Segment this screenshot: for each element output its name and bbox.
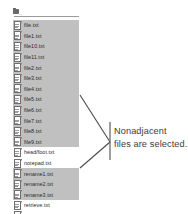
file-list-item[interactable]: notepad.txt	[13, 158, 79, 169]
file-list-item[interactable]: file4.txt	[13, 84, 79, 95]
file-name-label: retrieve.txt	[24, 202, 50, 208]
file-list-item[interactable]: file3.txt	[13, 73, 79, 84]
callout-annotation: Nonadjacent files are selected.	[114, 125, 188, 150]
file-list-item[interactable]: rename2.txt	[13, 179, 79, 190]
file-list-item[interactable]: rename3.txt	[13, 190, 79, 201]
file-list-item[interactable]: search.txt	[13, 211, 79, 214]
text-document-icon	[14, 21, 22, 30]
file-list-item[interactable]: file9.txt	[13, 137, 79, 148]
parent-directory-entry[interactable]: ..	[13, 6, 79, 17]
file-name-label: file7.txt	[24, 118, 42, 124]
file-name-label: file1.txt	[24, 33, 42, 39]
file-list-item[interactable]: head/foot.txt	[13, 147, 79, 158]
text-document-icon	[14, 31, 22, 40]
file-list[interactable]: .. file.txtfile1.txtfile10.txtfile11.txt…	[13, 6, 79, 214]
file-list-item[interactable]: file6.txt	[13, 105, 79, 116]
file-list-item[interactable]: file5.txt	[13, 94, 79, 105]
callout-line-2: files are selected.	[114, 138, 188, 151]
text-document-icon	[14, 74, 22, 83]
text-document-icon	[14, 84, 22, 93]
leader-line-lower	[80, 142, 110, 168]
file-rows: file.txtfile1.txtfile10.txtfile11.txtfil…	[13, 20, 79, 214]
file-name-label: file2.txt	[24, 65, 42, 71]
screenshot-root: .. file.txtfile1.txtfile10.txtfile11.txt…	[0, 0, 188, 214]
text-document-icon	[14, 159, 22, 168]
text-document-icon	[14, 63, 22, 72]
file-name-label: search.txt	[24, 213, 48, 214]
file-name-label: file8.txt	[24, 128, 42, 134]
text-document-icon	[14, 148, 22, 157]
text-document-icon	[14, 127, 22, 136]
text-document-icon	[14, 137, 22, 146]
text-document-icon	[14, 53, 22, 62]
text-document-icon	[14, 169, 22, 178]
file-list-item[interactable]: file11.txt	[13, 52, 79, 63]
file-name-label: file10.txt	[24, 43, 45, 49]
folder-up-icon: ..	[13, 8, 22, 16]
text-document-icon	[14, 211, 22, 214]
file-name-label: file3.txt	[24, 75, 42, 81]
file-name-label: file5.txt	[24, 96, 42, 102]
file-list-item[interactable]: rename1.txt	[13, 168, 79, 179]
file-list-item[interactable]: file7.txt	[13, 115, 79, 126]
file-list-item[interactable]: file2.txt	[13, 62, 79, 73]
file-name-label: file4.txt	[24, 86, 42, 92]
file-name-label: rename2.txt	[24, 181, 53, 187]
file-list-item[interactable]: file.txt	[13, 20, 79, 31]
file-name-label: file9.txt	[24, 139, 42, 145]
file-name-label: file11.txt	[24, 54, 44, 60]
text-document-icon	[14, 106, 22, 115]
file-list-item[interactable]: file10.txt	[13, 41, 79, 52]
file-name-label: rename3.txt	[24, 192, 53, 198]
text-document-icon	[14, 95, 22, 104]
text-document-icon	[14, 42, 22, 51]
leader-line-upper	[80, 95, 110, 142]
callout-line-1: Nonadjacent	[114, 125, 188, 138]
text-document-icon	[14, 190, 22, 199]
list-divider	[14, 16, 79, 17]
file-list-item[interactable]: file1.txt	[13, 31, 79, 42]
file-name-label: head/foot.txt	[24, 149, 54, 155]
file-name-label: rename1.txt	[24, 171, 53, 177]
file-name-label: notepad.txt	[24, 160, 51, 166]
text-document-icon	[14, 201, 22, 210]
file-name-label: file.txt	[24, 22, 38, 28]
file-name-label: file6.txt	[24, 107, 42, 113]
text-document-icon	[14, 180, 22, 189]
text-document-icon	[14, 116, 22, 125]
file-list-item[interactable]: file8.txt	[13, 126, 79, 137]
file-list-item[interactable]: retrieve.txt	[13, 200, 79, 211]
